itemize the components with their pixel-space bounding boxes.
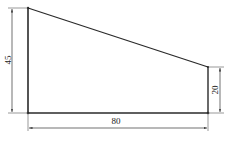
bottom-width-label: 80 [112,116,122,126]
left-height-label: 45 [3,55,13,65]
slanted-top-edge [28,8,208,67]
bottom-width-dimension: 80 [28,113,208,131]
trapezoid-dimension-drawing: 45 20 80 [0,0,227,142]
left-height-dimension: 45 [3,8,29,113]
right-height-dimension: 20 [208,67,224,113]
right-height-label: 20 [210,85,220,95]
trapezoid-shape [27,7,210,114]
